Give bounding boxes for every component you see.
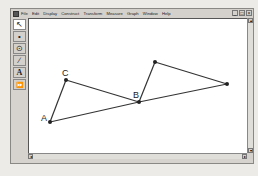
point[interactable] — [153, 60, 157, 64]
segment[interactable] — [139, 62, 155, 102]
point[interactable] — [137, 100, 141, 104]
segment[interactable] — [139, 84, 227, 102]
geometry-drawing[interactable]: ACB — [0, 0, 258, 176]
point-label-b[interactable]: B — [133, 90, 139, 100]
point-label-c[interactable]: C — [62, 68, 69, 78]
segment[interactable] — [155, 62, 227, 84]
point[interactable] — [48, 120, 52, 124]
point[interactable] — [64, 78, 68, 82]
segment[interactable] — [66, 80, 139, 102]
point-label-a[interactable]: A — [41, 113, 47, 123]
point[interactable] — [225, 82, 229, 86]
segment[interactable] — [50, 102, 139, 122]
segment[interactable] — [50, 80, 66, 122]
